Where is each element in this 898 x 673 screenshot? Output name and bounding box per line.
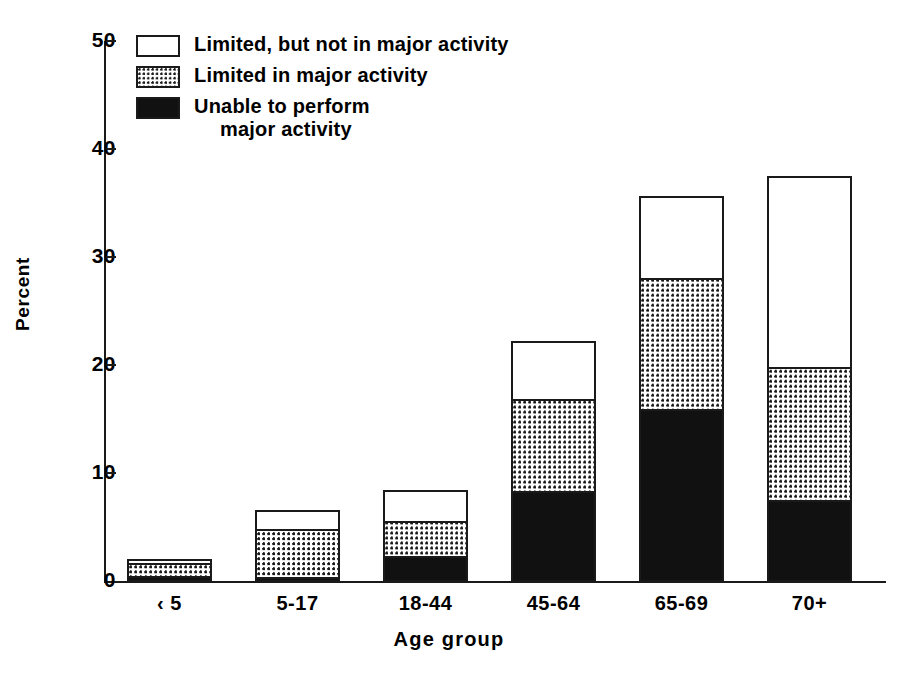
x-tick-label-45-64: 45-64 (511, 592, 596, 615)
x-tick-label-65-69: 65-69 (639, 592, 724, 615)
x-tick-label-18-44: 18-44 (383, 592, 468, 615)
stacked-bar-chart: 50 40 30 20 10 0 Percent Age group (0, 0, 898, 673)
bar-segment-limited-major (641, 278, 722, 409)
x-tick-label-70-plus: 70+ (767, 592, 852, 615)
y-tick-10: 10 (40, 472, 116, 474)
y-tick-20: 20 (40, 364, 116, 366)
bar-age-70-plus (767, 176, 852, 582)
y-tick-mark-20 (106, 364, 116, 366)
x-tick-label-5-17: 5-17 (255, 592, 340, 615)
bar-segment-unable (385, 556, 466, 580)
legend-label-limited-not-major: Limited, but not in major activity (194, 33, 509, 56)
bar-segment-limited-major (769, 367, 850, 500)
bar-segment-limited-major (129, 563, 210, 575)
y-tick-30: 30 (40, 256, 116, 258)
legend-label-unable: Unable to performmajor activity (194, 95, 370, 142)
legend-swatch-black-icon (136, 97, 180, 119)
bar-segment-limited-major (513, 399, 594, 490)
y-tick-0: 0 (40, 580, 116, 582)
x-axis-title: Age group (0, 628, 898, 651)
y-tick-40: 40 (40, 148, 116, 150)
y-axis-line (104, 41, 106, 583)
bar-age-45-64 (511, 341, 596, 582)
bar-age-65-69 (639, 196, 724, 582)
legend-item-limited-not-major: Limited, but not in major activity (136, 33, 656, 57)
bar-segment-limited-not-major (385, 492, 466, 521)
bar-segment-unable (641, 409, 722, 580)
bar-segment-limited-not-major (769, 178, 850, 367)
bar-segment-limited-major (257, 529, 338, 577)
legend-item-unable: Unable to performmajor activity (136, 95, 656, 142)
bar-segment-unable (129, 576, 210, 580)
bar-segment-limited-not-major (513, 343, 594, 399)
y-tick-mark-10 (106, 472, 116, 474)
y-tick-50: 50 (40, 40, 116, 42)
legend-item-limited-major: Limited in major activity (136, 64, 656, 88)
bar-age-5-17 (255, 510, 340, 582)
y-tick-label-0: 0 (70, 569, 116, 590)
bar-age-18-44 (383, 490, 468, 582)
bar-segment-limited-not-major (641, 198, 722, 278)
bar-age-under-5 (127, 559, 212, 582)
y-tick-mark-40 (106, 148, 116, 150)
bar-segment-unable (257, 577, 338, 580)
legend-swatch-white-icon (136, 35, 180, 57)
y-tick-mark-50 (106, 40, 116, 42)
bar-segment-unable (513, 491, 594, 581)
bar-segment-unable (769, 500, 850, 580)
y-tick-mark-30 (106, 256, 116, 258)
y-axis-title: Percent (12, 234, 34, 354)
bar-segment-limited-major (385, 521, 466, 556)
legend: Limited, but not in major activity Limit… (136, 33, 656, 149)
x-tick-label-under-5: ‹ 5 (127, 592, 212, 615)
bar-segment-limited-not-major (257, 512, 338, 529)
legend-swatch-dotted-icon (136, 66, 180, 88)
legend-label-limited-major: Limited in major activity (194, 64, 428, 87)
